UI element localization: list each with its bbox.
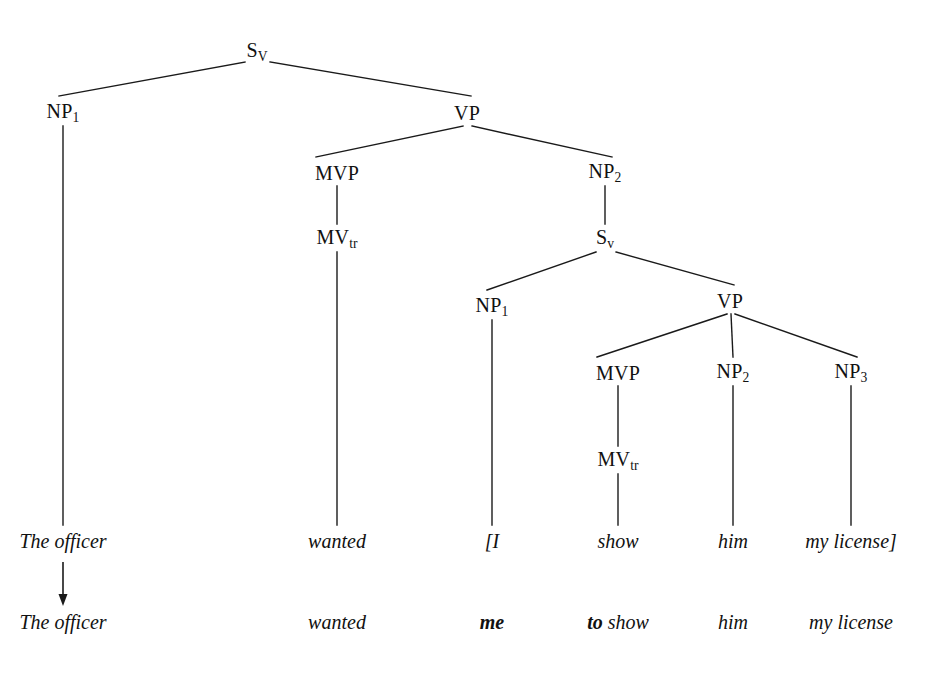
- tree-node-np2-emb: NP2: [717, 361, 750, 384]
- tree-edge-semb-to-np1: [487, 252, 596, 290]
- surface-word-out-me: me: [480, 612, 504, 632]
- terminal-word-wanted: wanted: [308, 531, 366, 551]
- surface-word-bold-part: to: [587, 611, 608, 633]
- tree-node-np1-main: NP1: [47, 101, 80, 124]
- node-label-text: MVP: [315, 162, 359, 184]
- tree-node-s-main: SV: [246, 40, 267, 63]
- tree-edge-vp-to-np2: [472, 126, 612, 157]
- terminal-word-show: show: [597, 531, 638, 551]
- node-label-subscript: 1: [73, 110, 80, 125]
- tree-node-mvp-main: MVP: [315, 163, 359, 183]
- node-label-subscript: 1: [502, 304, 509, 319]
- tree-node-vp-emb: VP: [717, 291, 743, 311]
- node-label-text: S: [246, 39, 257, 61]
- node-label-text: NP: [47, 100, 73, 122]
- surface-word-plain-part: him: [718, 611, 748, 633]
- surface-word-bold-part: me: [480, 611, 504, 633]
- tree-node-s-embedded: Sv: [596, 227, 614, 250]
- surface-word-plain-part: wanted: [308, 611, 366, 633]
- surface-word-plain-part: show: [608, 611, 649, 633]
- node-label-text: S: [596, 226, 607, 248]
- node-label-subscript: tr: [349, 236, 357, 251]
- node-label-subscript: 3: [861, 370, 868, 385]
- node-label-text: NP: [835, 360, 861, 382]
- tree-edge-semb-to-vp: [616, 252, 734, 285]
- surface-word-plain-part: The officer: [19, 611, 106, 633]
- tree-edge-vp-to-mvp: [316, 126, 463, 157]
- tree-node-vp-main: VP: [454, 103, 480, 123]
- tree-node-mvtr-emb: MVtr: [598, 449, 639, 472]
- node-label-text: VP: [717, 290, 743, 312]
- surface-word-out-him: him: [718, 612, 748, 632]
- surface-word-out-my-license: my license: [809, 612, 893, 632]
- node-label-text: MV: [598, 448, 631, 470]
- terminal-word-my-license: my license]: [805, 531, 897, 551]
- node-label-subscript: 2: [615, 170, 622, 185]
- terminal-word-him: him: [718, 531, 748, 551]
- tree-node-mvtr-main: MVtr: [317, 227, 358, 250]
- tree-edge-vpemb-to-mvp: [597, 314, 727, 357]
- surface-word-out-wanted: wanted: [308, 612, 366, 632]
- node-label-subscript: tr: [630, 458, 638, 473]
- tree-edge-s-to-vp: [270, 62, 471, 96]
- node-label-text: NP: [717, 360, 743, 382]
- surface-word-plain-part: my license: [809, 611, 893, 633]
- node-label-text: MV: [317, 226, 350, 248]
- terminal-word-bracket-i: [I: [485, 531, 499, 551]
- node-label-subscript: v: [607, 236, 614, 251]
- surface-word-out-to-show: to show: [587, 612, 649, 632]
- tree-node-np2-main: NP2: [589, 161, 622, 184]
- tree-node-np1-emb: NP1: [476, 295, 509, 318]
- syntax-tree-diagram: SVNP1VPMVPNP2MVtrSvNP1VPMVPNP2NP3MVtr Th…: [0, 0, 929, 677]
- node-label-text: VP: [454, 102, 480, 124]
- arrow-head: [59, 594, 68, 606]
- node-label-text: NP: [589, 160, 615, 182]
- tree-edge-s-to-np1: [59, 62, 245, 96]
- node-label-text: MVP: [596, 362, 640, 384]
- tree-edge-vpemb-to-np3: [735, 314, 857, 357]
- node-label-text: NP: [476, 294, 502, 316]
- node-label-subscript: V: [258, 49, 268, 64]
- tree-node-mvp-emb: MVP: [596, 363, 640, 383]
- terminal-word-the-officer: The officer: [19, 531, 106, 551]
- surface-word-out-the-officer: The officer: [19, 612, 106, 632]
- derivation-arrow: [59, 562, 68, 606]
- tree-edge-vpemb-to-np2: [731, 314, 733, 357]
- node-label-subscript: 2: [743, 370, 750, 385]
- tree-node-np3-emb: NP3: [835, 361, 868, 384]
